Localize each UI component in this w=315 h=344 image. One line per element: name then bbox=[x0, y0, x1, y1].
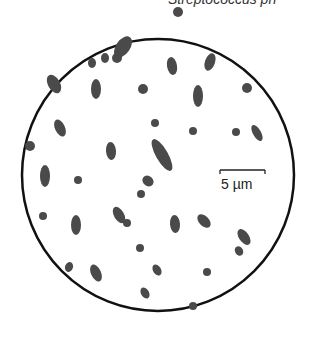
bacterium bbox=[101, 53, 109, 63]
bacterium bbox=[74, 176, 82, 184]
bacteria-cells bbox=[25, 7, 265, 310]
bacterium bbox=[242, 83, 252, 93]
bacterium bbox=[166, 56, 179, 75]
bacterium bbox=[233, 245, 245, 258]
scale-bar-label: 5 µm bbox=[221, 176, 252, 192]
bacterium bbox=[39, 212, 47, 220]
bacterium bbox=[136, 244, 144, 252]
bacterium bbox=[189, 127, 197, 135]
bacterium bbox=[105, 142, 117, 161]
bacterium bbox=[91, 79, 101, 99]
bacterium bbox=[123, 219, 131, 227]
bacterium bbox=[235, 227, 254, 247]
bacterium bbox=[138, 84, 148, 94]
bacterium bbox=[44, 72, 64, 95]
bacterium bbox=[148, 136, 176, 173]
bacterium bbox=[202, 52, 218, 72]
bacterium bbox=[88, 263, 105, 284]
bacterium bbox=[137, 190, 145, 198]
bacterium bbox=[151, 263, 164, 277]
bacterium bbox=[249, 123, 265, 143]
bacterium bbox=[232, 128, 240, 136]
bacterium bbox=[193, 85, 203, 107]
bacterium bbox=[195, 212, 213, 230]
bacterium bbox=[25, 141, 35, 151]
bacterium bbox=[169, 215, 181, 234]
bacterium bbox=[40, 165, 50, 187]
bacterium bbox=[112, 53, 122, 63]
bacterium bbox=[88, 58, 96, 68]
bacterium bbox=[52, 118, 69, 139]
bacterium bbox=[140, 173, 156, 188]
bacterium bbox=[64, 261, 75, 273]
bacterium bbox=[71, 215, 81, 235]
bacterium bbox=[173, 7, 183, 17]
bacterium bbox=[203, 268, 211, 276]
bacterium bbox=[151, 119, 159, 127]
bacterium bbox=[139, 286, 152, 300]
microscope-field-diagram bbox=[0, 0, 315, 344]
bacterium bbox=[189, 302, 197, 310]
